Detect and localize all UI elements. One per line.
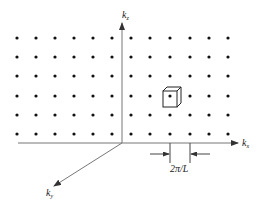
lattice-point: [110, 132, 113, 135]
lattice-point: [72, 94, 75, 97]
lattice-point: [91, 55, 94, 58]
lattice-point: [34, 36, 37, 39]
diagram-canvas: [0, 0, 259, 205]
lattice-point: [188, 113, 191, 116]
lattice-point: [148, 74, 151, 77]
lattice-point: [207, 74, 210, 77]
lattice-point: [110, 36, 113, 39]
lattice-point: [15, 55, 18, 58]
lattice-point: [207, 94, 210, 97]
lattice-point: [53, 55, 56, 58]
lattice-point: [168, 36, 171, 39]
lattice-point: [53, 74, 56, 77]
lattice-point: [168, 55, 171, 58]
lattice-point: [129, 55, 132, 58]
lattice-point: [226, 94, 229, 97]
lattice-point: [15, 36, 18, 39]
lattice-point: [72, 36, 75, 39]
lattice-point: [148, 94, 151, 97]
lattice-point: [207, 55, 210, 58]
lattice-point: [129, 94, 132, 97]
lattice-point: [15, 132, 18, 135]
lattice-point: [188, 36, 191, 39]
lattice-point: [91, 132, 94, 135]
lattice-point: [207, 36, 210, 39]
lattice-point: [226, 132, 229, 135]
lattice-point: [207, 113, 210, 116]
lattice-point: [110, 55, 113, 58]
lattice-point: [53, 132, 56, 135]
lattice-point: [129, 36, 132, 39]
spacing-indicator: [150, 143, 210, 163]
lattice-point: [226, 113, 229, 116]
lattice-point: [15, 113, 18, 116]
lattice-point: [72, 74, 75, 77]
lattice-point: [168, 132, 171, 135]
lattice-point: [53, 36, 56, 39]
lattice-point: [129, 74, 132, 77]
lattice-point: [168, 94, 171, 97]
lattice-point: [110, 74, 113, 77]
lattice-point: [129, 113, 132, 116]
lattice-point: [34, 74, 37, 77]
lattice-point: [72, 55, 75, 58]
lattice-point: [188, 132, 191, 135]
lattice-point: [34, 55, 37, 58]
lattice-point: [207, 132, 210, 135]
lattice-point: [148, 132, 151, 135]
lattice-point: [188, 94, 191, 97]
lattice-point: [91, 94, 94, 97]
lattice-point: [188, 55, 191, 58]
spacing-label: 2π/L: [170, 164, 188, 174]
lattice-point: [110, 113, 113, 116]
lattice-point: [91, 36, 94, 39]
lattice-point: [148, 36, 151, 39]
lattice-point: [226, 36, 229, 39]
lattice-point: [34, 113, 37, 116]
lattice-point: [91, 74, 94, 77]
lattice-point: [168, 113, 171, 116]
kx-axis-label: kx: [242, 138, 249, 149]
lattice-point: [53, 94, 56, 97]
ky-axis: [54, 143, 122, 186]
lattice-point: [168, 74, 171, 77]
lattice-point: [53, 113, 56, 116]
lattice-point: [188, 74, 191, 77]
lattice-point: [72, 132, 75, 135]
lattice-point: [34, 94, 37, 97]
lattice-point: [91, 113, 94, 116]
lattice-point: [226, 74, 229, 77]
kz-axis-label: kz: [122, 10, 129, 21]
lattice-point: [15, 94, 18, 97]
lattice-point: [129, 132, 132, 135]
lattice-point: [34, 132, 37, 135]
lattice-point: [148, 55, 151, 58]
lattice-point: [15, 74, 18, 77]
lattice-point: [226, 55, 229, 58]
lattice-point: [148, 113, 151, 116]
lattice-point: [110, 94, 113, 97]
lattice-point: [72, 113, 75, 116]
unit-cell-cube: [163, 87, 181, 107]
k-space-lattice-diagram: kz kx ky 2π/L: [0, 0, 259, 205]
ky-axis-label: ky: [46, 188, 53, 199]
